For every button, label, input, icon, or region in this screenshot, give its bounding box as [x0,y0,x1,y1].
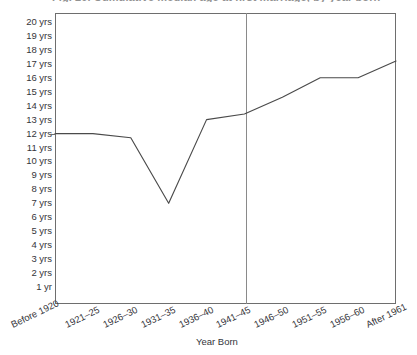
x-tick-label: 1956–60 [328,304,366,330]
y-tick-label: 3 yrs [4,254,52,264]
y-tick-label: 14 yrs [4,101,52,111]
y-tick-label: 16 yrs [4,73,52,83]
x-tick-label: 1921–25 [63,304,101,330]
y-tick-label: 17 yrs [4,59,52,69]
y-tick-label: 4 yrs [4,240,52,250]
figure-caption: Fig. 20. Cumulative median age at first … [52,0,392,2]
figure-chart: Fig. 20. Cumulative median age at first … [0,0,417,355]
y-tick-label: 6 yrs [4,212,52,222]
y-tick-label: 10 yrs [4,156,52,166]
x-tick-label: 1926–30 [101,304,139,330]
x-tick-label: 1951–55 [290,304,328,330]
x-axis-title: Year Born [196,336,238,347]
y-tick-label: 12 yrs [4,129,52,139]
x-tick-label: 1936–40 [177,304,215,330]
x-tick-label: 1931–35 [139,304,177,330]
y-tick-label: 8 yrs [4,184,52,194]
y-tick-mark [49,134,55,135]
y-tick-label: 20 yrs [4,17,52,27]
y-tick-label: 1 yr [4,282,52,292]
plot-area [55,13,396,304]
y-tick-label: 13 yrs [4,115,52,125]
y-tick-label: 11 yrs [4,143,52,153]
y-tick-label: 5 yrs [4,226,52,236]
y-tick-label: 19 yrs [4,31,52,41]
y-tick-label: 18 yrs [4,45,52,55]
y-tick-label: 15 yrs [4,87,52,97]
x-tick-label: After 1961 [364,301,408,330]
y-tick-label: 2 yrs [4,268,52,278]
x-tick-label: 1941–45 [214,304,252,330]
y-tick-label: 9 yrs [4,170,52,180]
y-tick-label: 7 yrs [4,198,52,208]
vertical-reference-line [246,13,247,304]
x-tick-label: 1946–50 [252,304,290,330]
